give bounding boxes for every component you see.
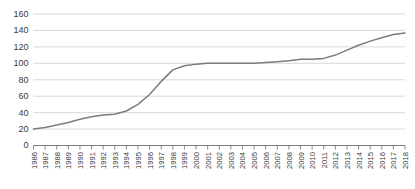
x-axis-tick-label: 2005 — [250, 152, 259, 169]
x-axis-tick-label: 2013 — [343, 152, 352, 169]
series-line — [34, 33, 406, 129]
x-axis-tick-label: 2008 — [285, 152, 294, 169]
x-axis-tick-label: 2006 — [262, 152, 271, 169]
x-axis-tick-label: 2002 — [215, 152, 224, 169]
chart-canvas: 020406080100120140160 198619871988198919… — [0, 0, 415, 189]
x-axis-tick-label: 2007 — [273, 152, 282, 169]
y-axis-tick-label: 140 — [13, 25, 28, 35]
x-axis-tick-label: 2018 — [401, 152, 410, 169]
x-axis-tick-labels: 1986198719881989199019911992199319941995… — [30, 152, 411, 169]
x-axis-tick-label: 2016 — [378, 152, 387, 169]
x-axis-tick-label: 2000 — [192, 152, 201, 169]
y-axis-tick-label: 60 — [18, 91, 28, 101]
x-axis-tick-label: 2017 — [389, 152, 398, 169]
x-axis-tick-label: 2015 — [366, 152, 375, 169]
x-axis-tick-label: 1996 — [146, 152, 155, 169]
x-axis-tick-label: 1994 — [122, 152, 131, 169]
x-axis-tick-label: 2001 — [204, 152, 213, 169]
y-axis-tick-label: 80 — [18, 75, 28, 85]
x-axis-tick-label: 2010 — [308, 152, 317, 169]
x-axis-tick-label: 2003 — [227, 152, 236, 169]
gridlines — [34, 14, 406, 129]
x-axis-tick-label: 1998 — [169, 152, 178, 169]
y-axis-tick-label: 100 — [13, 58, 28, 68]
x-axis-tick-label: 1988 — [53, 152, 62, 169]
x-axis-tick-label: 1987 — [41, 152, 50, 169]
x-axis-tickmarks — [34, 146, 406, 150]
x-axis-tick-label: 2004 — [238, 152, 247, 169]
data-series — [34, 33, 406, 129]
line-chart: 020406080100120140160 198619871988198919… — [0, 0, 415, 189]
y-axis-tick-label: 20 — [18, 124, 28, 134]
x-axis-tick-label: 1989 — [64, 152, 73, 169]
x-axis-tick-label: 1993 — [111, 152, 120, 169]
y-axis-tick-label: 160 — [13, 9, 28, 19]
x-axis-tick-label: 1992 — [99, 152, 108, 169]
x-axis-tick-label: 1995 — [134, 152, 143, 169]
x-axis-tick-label: 1990 — [76, 152, 85, 169]
x-axis-tick-label: 1986 — [30, 152, 39, 169]
y-axis-tick-labels: 020406080100120140160 — [13, 9, 28, 151]
y-axis-tick-label: 0 — [23, 140, 28, 150]
y-axis-tick-label: 120 — [13, 42, 28, 52]
x-axis-tick-label: 1991 — [88, 152, 97, 169]
x-axis-tick-label: 1997 — [157, 152, 166, 169]
y-axis-tick-label: 40 — [18, 108, 28, 118]
x-axis-tick-label: 2014 — [355, 152, 364, 169]
x-axis-tick-label: 2012 — [331, 152, 340, 169]
x-axis-tick-label: 1999 — [180, 152, 189, 169]
x-axis-tick-label: 2011 — [320, 152, 329, 168]
x-axis-tick-label: 2009 — [297, 152, 306, 169]
